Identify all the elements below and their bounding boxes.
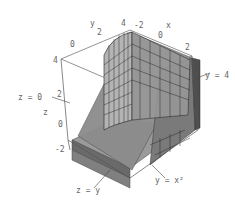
y-tick-0: 0 xyxy=(70,40,75,49)
z-tick-0: 0 xyxy=(58,120,63,129)
y-axis-label: y xyxy=(90,19,95,28)
x-tick-2: 2 xyxy=(185,43,190,52)
y-tick-2: 2 xyxy=(97,28,102,37)
annotation-y-equals-x-squared: y = x² xyxy=(155,176,184,185)
plot-3d: y 2 0 4 -2 x 0 2 4 2 z 0 -2 z = 0 y = 4 … xyxy=(0,0,235,204)
z-axis-label: z xyxy=(43,108,48,117)
x-tick-0: 0 xyxy=(158,31,163,40)
x-axis-label: x xyxy=(166,21,171,30)
annotation-z-equals-0: z = 0 xyxy=(18,93,42,102)
z-tick-4: 4 xyxy=(53,56,58,65)
annotation-z-equals-y: z = y xyxy=(76,186,100,195)
y-tick-4: 4 xyxy=(121,19,126,28)
z-tick-neg2: -2 xyxy=(55,145,65,154)
x-tick-neg2: -2 xyxy=(134,21,144,30)
z-tick-2: 2 xyxy=(57,90,62,99)
annotation-y-equals-4: y = 4 xyxy=(205,71,229,80)
plot-canvas: y 2 0 4 -2 x 0 2 4 2 z 0 -2 z = 0 y = 4 … xyxy=(0,0,235,204)
